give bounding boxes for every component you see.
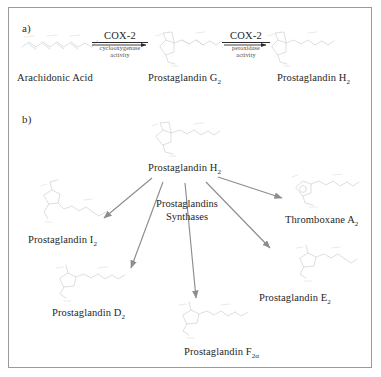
panel-b-label: b) (22, 113, 32, 125)
prostaglandin-synthases-label: Prostaglandins Synthases (148, 197, 226, 223)
label-prostaglandin-e2: Prostaglandin E2 (259, 292, 331, 303)
label-prostaglandin-h2-a-text: Prostaglandin H (277, 72, 346, 83)
label-prostaglandin-h2-a-sub: 2 (346, 78, 350, 86)
enzyme-activity-1a: cyclooxygenase (92, 44, 148, 52)
enzyme-name-1: COX-2 (92, 30, 148, 41)
label-thromboxane-a2-text: Thromboxane A (285, 214, 355, 225)
label-prostaglandin-f2a-sub: 2α (252, 352, 259, 360)
enzyme-activity-2b: activity (222, 51, 270, 59)
label-prostaglandin-i2-sub: 2 (93, 240, 97, 248)
label-prostaglandin-g2-sub: 2 (217, 78, 221, 86)
figure-root: a) b) COX-2 cyclooxygenase activity COX-… (0, 0, 381, 377)
label-thromboxane-a2: Thromboxane A2 (285, 214, 358, 225)
label-prostaglandin-d2-text: Prostaglandin D (52, 307, 121, 318)
label-prostaglandin-i2-text: Prostaglandin I (28, 234, 93, 245)
label-prostaglandin-d2-sub: 2 (121, 313, 125, 321)
enzyme-activity-2a: peroxidase (222, 44, 270, 52)
synthases-line-2: Synthases (148, 210, 226, 223)
enzyme-step-1: COX-2 cyclooxygenase activity (92, 30, 148, 59)
label-prostaglandin-h2-a: Prostaglandin H2 (277, 72, 350, 83)
label-prostaglandin-h2-b: Prostaglandin H2 (148, 162, 221, 173)
synthases-line-1: Prostaglandins (148, 197, 226, 210)
label-arachidonic-acid-text: Arachidonic Acid (17, 72, 93, 83)
label-prostaglandin-e2-sub: 2 (327, 298, 331, 306)
label-prostaglandin-f2a: Prostaglandin F2α (184, 346, 259, 357)
label-prostaglandin-i2: Prostaglandin I2 (28, 234, 97, 245)
label-prostaglandin-g2-text: Prostaglandin G (148, 72, 217, 83)
label-prostaglandin-h2-b-text: Prostaglandin H (148, 162, 217, 173)
label-prostaglandin-f2a-text: Prostaglandin F (184, 346, 252, 357)
enzyme-rule-2 (222, 42, 270, 43)
enzyme-activity-1b: activity (92, 51, 148, 59)
label-prostaglandin-h2-b-sub: 2 (217, 168, 221, 176)
enzyme-step-2: COX-2 peroxidase activity (222, 30, 270, 59)
label-prostaglandin-d2: Prostaglandin D2 (52, 307, 125, 318)
enzyme-name-2: COX-2 (222, 30, 270, 41)
label-arachidonic-acid: Arachidonic Acid (17, 72, 93, 83)
label-prostaglandin-e2-text: Prostaglandin E (259, 292, 327, 303)
enzyme-rule-1 (92, 42, 148, 43)
panel-a-label: a) (22, 22, 31, 34)
label-prostaglandin-g2: Prostaglandin G2 (148, 72, 221, 83)
label-thromboxane-a2-sub: 2 (355, 220, 359, 228)
